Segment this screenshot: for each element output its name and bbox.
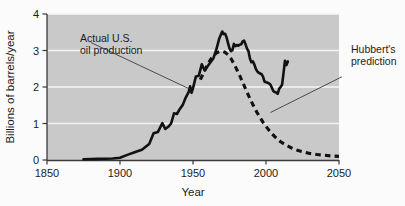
annotation-actual-line2: oil production	[80, 44, 143, 56]
y-axis-tick-labels: 01234	[33, 8, 39, 166]
y-tick-label: 0	[33, 154, 39, 166]
y-axis-title: Billions of barrels/year	[4, 30, 16, 143]
y-tick-label: 3	[33, 45, 39, 57]
chart-figure: 18501900195020002050 01234 Actual U.S. o…	[0, 0, 405, 206]
oil-production-chart: 18501900195020002050 01234 Actual U.S. o…	[0, 0, 405, 206]
x-tick-label: 1850	[35, 167, 59, 179]
y-tick-label: 1	[33, 118, 39, 130]
x-tick-label: 1900	[108, 167, 132, 179]
y-tick-label: 2	[33, 81, 39, 93]
x-tick-label: 1950	[181, 167, 205, 179]
annotation-actual-line1: Actual U.S.	[80, 32, 133, 44]
y-axis-ticks	[43, 14, 48, 160]
annotation-hubbert-line2: prediction	[351, 55, 397, 67]
x-axis-tick-labels: 18501900195020002050	[35, 167, 351, 179]
x-axis-title: Year	[181, 186, 204, 198]
y-tick-label: 4	[33, 8, 39, 20]
annotation-hubbert-line1: Hubbert's	[351, 43, 396, 55]
x-tick-label: 2050	[327, 167, 351, 179]
x-tick-label: 2000	[254, 167, 278, 179]
